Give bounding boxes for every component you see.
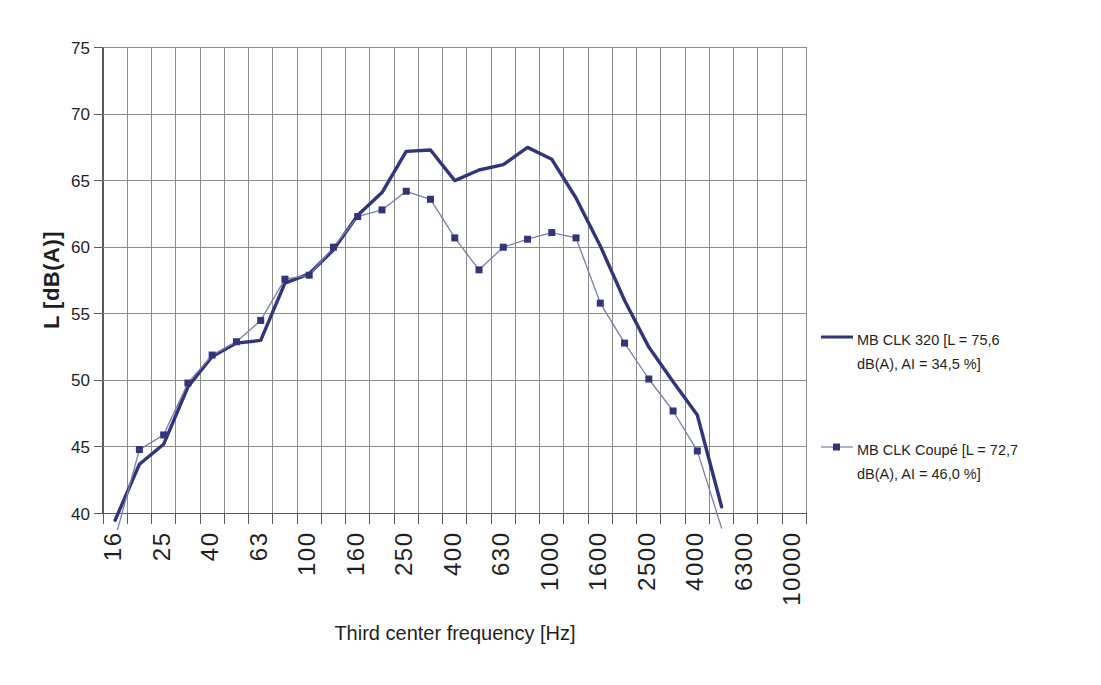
series-marker xyxy=(500,244,507,251)
series-marker xyxy=(670,407,677,414)
y-tick-label: 45 xyxy=(71,438,90,457)
y-tick-label: 75 xyxy=(71,39,90,58)
series-marker xyxy=(257,317,264,324)
series-marker xyxy=(233,338,240,345)
series-marker xyxy=(378,206,385,213)
series-marker xyxy=(354,213,361,220)
x-tick-label: 63 xyxy=(245,532,272,562)
clk-coupe-line-sample-icon xyxy=(820,442,854,452)
y-tick-label: 70 xyxy=(71,105,90,124)
series-marker xyxy=(476,266,483,273)
series-marker xyxy=(548,229,555,236)
x-tick-label: 160 xyxy=(342,532,369,577)
y-tick-label: 65 xyxy=(71,172,90,191)
series-marker xyxy=(281,276,288,283)
x-tick-label: 1600 xyxy=(584,532,611,591)
series-marker xyxy=(160,431,167,438)
clk320-line-sample-icon xyxy=(820,332,854,342)
y-tick-label: 50 xyxy=(71,371,90,390)
series-marker xyxy=(621,340,628,347)
x-tick-label: 250 xyxy=(390,532,417,577)
x-tick-label: 1000 xyxy=(536,532,563,591)
y-tick-label: 55 xyxy=(71,305,90,324)
x-tick-label: 4000 xyxy=(681,532,708,591)
y-tick-label: 60 xyxy=(71,238,90,257)
x-tick-label: 2500 xyxy=(633,532,660,591)
x-tick-label: 10000 xyxy=(778,532,805,606)
x-tick-label: 25 xyxy=(148,532,175,562)
x-tick-label: 6300 xyxy=(730,532,757,591)
legend-label-clk-coupe: MB CLK Coupé [L = 72,7 dB(A), AI = 46,0 … xyxy=(857,438,1035,486)
x-tick-label: 630 xyxy=(487,532,514,577)
y-axis-title: L [dB(A)] xyxy=(39,231,65,329)
series-marker xyxy=(403,188,410,195)
series-marker xyxy=(451,234,458,241)
series-marker xyxy=(524,236,531,243)
y-tick-label: 40 xyxy=(71,505,90,524)
legend-label-clk320: MB CLK 320 [L = 75,6 dB(A), AI = 34,5 %] xyxy=(857,328,1035,376)
series-marker xyxy=(645,376,652,383)
series-marker xyxy=(136,446,143,453)
series-marker xyxy=(330,244,337,251)
chart-canvas: 4045505560657075162540631001602504006301… xyxy=(0,0,1101,685)
series-marker xyxy=(573,234,580,241)
x-tick-label: 40 xyxy=(196,532,223,562)
series-marker xyxy=(306,272,313,279)
series-marker xyxy=(184,380,191,387)
x-axis-title: Third center frequency [Hz] xyxy=(255,622,655,645)
series-marker xyxy=(209,352,216,359)
series-marker xyxy=(597,300,604,307)
series-marker xyxy=(427,196,434,203)
x-tick-label: 100 xyxy=(293,532,320,577)
x-tick-label: 16 xyxy=(99,532,126,562)
x-tick-label: 400 xyxy=(439,532,466,577)
series-marker xyxy=(694,447,701,454)
